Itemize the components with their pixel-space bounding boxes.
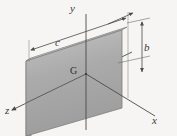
centroid-label-G: G <box>70 66 77 76</box>
axis-label-y: y <box>70 3 75 14</box>
plate-front-face <box>26 30 122 136</box>
dimension-label-b: b <box>144 42 150 53</box>
axis-label-x: x <box>152 115 157 126</box>
axis-label-z: z <box>5 105 9 116</box>
plate-diagram-svg <box>0 0 177 136</box>
figure-container: y x z b c G <box>0 0 177 136</box>
rectangular-plate <box>26 27 127 136</box>
centroid-marker <box>85 73 87 75</box>
dimension-label-c: c <box>55 37 60 48</box>
